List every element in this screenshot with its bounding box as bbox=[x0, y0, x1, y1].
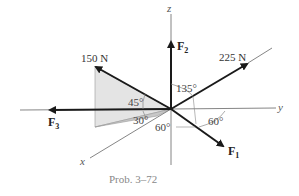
f3-label: F3 bbox=[48, 115, 59, 131]
angle-135: 135° bbox=[176, 82, 197, 94]
f3-arrow bbox=[50, 109, 171, 110]
f1-label: F1 bbox=[228, 144, 239, 160]
f150-magnitude: 150 N bbox=[81, 52, 108, 64]
f225-magnitude: 225 N bbox=[219, 51, 246, 63]
angle-30: 30° bbox=[133, 114, 148, 126]
angle-60-left: 60° bbox=[155, 121, 170, 133]
angle-60-right: 60° bbox=[208, 115, 223, 127]
force-diagram: z y x F2 F3 F1 150 N 225 N 135° 45° 30° … bbox=[0, 0, 299, 196]
angle-45: 45° bbox=[128, 96, 143, 108]
angle-guide-135 bbox=[193, 96, 196, 124]
f2-label: F2 bbox=[177, 39, 188, 55]
y-axis-label: y bbox=[277, 101, 283, 113]
y-axis bbox=[171, 108, 276, 109]
x-axis-label: x bbox=[79, 155, 85, 167]
caption: Prob. 3–72 bbox=[109, 173, 157, 185]
f225-line-ext bbox=[248, 48, 272, 63]
z-axis-label: z bbox=[166, 2, 172, 14]
